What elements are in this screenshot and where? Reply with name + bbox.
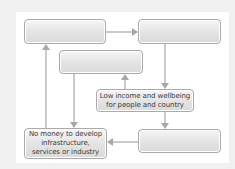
box-top-right (138, 19, 221, 44)
box-top-left (24, 19, 106, 44)
box-bottom-left-label: No money to develop infrastructure, serv… (25, 130, 106, 157)
box-middle (59, 50, 143, 74)
box-bottom-right (138, 129, 221, 153)
box-bottom-left: No money to develop infrastructure, serv… (24, 128, 107, 159)
box-low-income-label: Low income and wellbeing for people and … (97, 92, 193, 110)
box-low-income: Low income and wellbeing for people and … (96, 89, 194, 112)
